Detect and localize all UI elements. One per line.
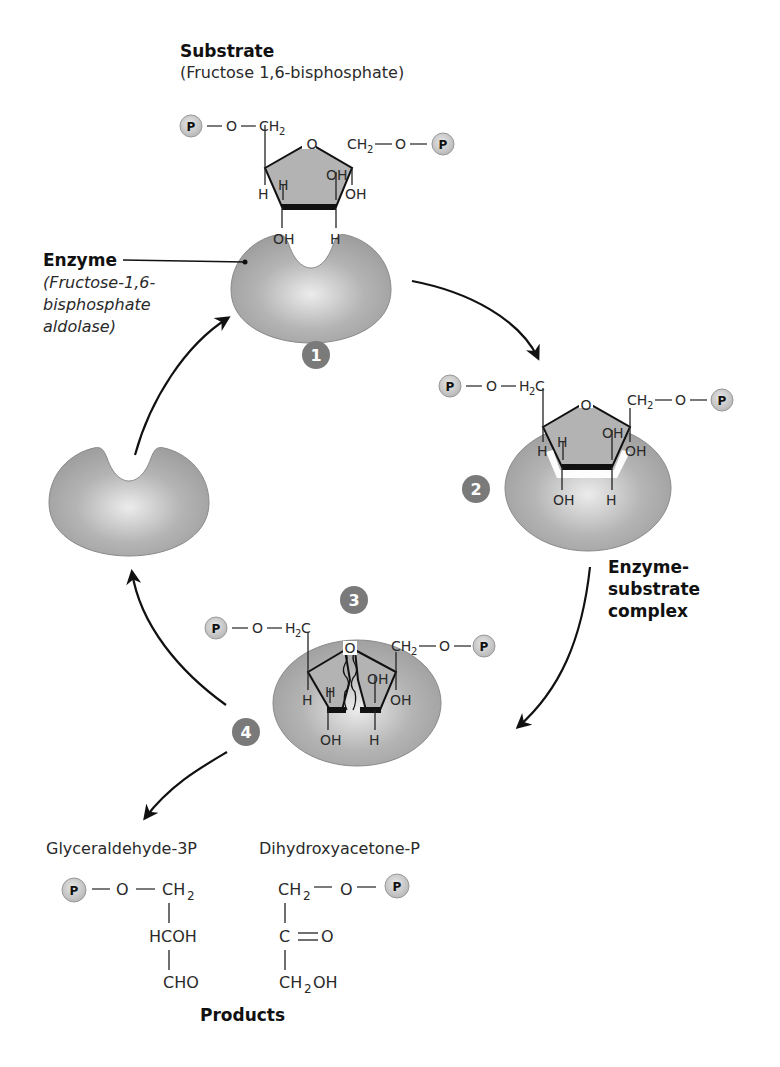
step-badge-2: 2 bbox=[462, 475, 490, 503]
step-badge-4: 4 bbox=[232, 718, 260, 746]
arrow-step2-to-step3 bbox=[518, 567, 590, 727]
svg-text:O: O bbox=[340, 880, 353, 899]
svg-text:CH: CH bbox=[347, 136, 367, 152]
products-structures: P O CH 2 HCOH CHO CH 2 O P C O CH 2 OH bbox=[62, 874, 409, 996]
svg-text:P: P bbox=[70, 884, 79, 898]
enzyme-heading: Enzyme bbox=[43, 250, 117, 271]
phosphate-icon: P bbox=[432, 133, 454, 155]
svg-text:O: O bbox=[306, 136, 317, 152]
svg-text:2: 2 bbox=[470, 480, 481, 499]
svg-text:2: 2 bbox=[303, 889, 311, 903]
svg-text:H: H bbox=[537, 443, 548, 459]
product-glyceraldehyde-name: Glyceraldehyde-3P bbox=[46, 838, 197, 859]
svg-text:H: H bbox=[278, 177, 289, 193]
svg-text:CH: CH bbox=[259, 118, 279, 134]
svg-text:O: O bbox=[226, 118, 237, 134]
enzyme-name-line2: bisphosphate bbox=[43, 294, 151, 315]
svg-text:H: H bbox=[302, 692, 313, 708]
svg-text:4: 4 bbox=[240, 723, 251, 742]
svg-text:P: P bbox=[187, 120, 196, 134]
svg-text:P: P bbox=[439, 138, 448, 152]
svg-text:C: C bbox=[301, 620, 311, 636]
svg-text:2: 2 bbox=[279, 126, 285, 137]
svg-text:O: O bbox=[116, 880, 129, 899]
svg-text:O: O bbox=[252, 620, 263, 636]
svg-text:O: O bbox=[395, 136, 406, 152]
svg-text:OH: OH bbox=[602, 425, 624, 441]
svg-text:OH: OH bbox=[313, 973, 338, 992]
complex-label-line3: complex bbox=[608, 601, 688, 622]
enzyme-name-line3: aldolase) bbox=[43, 316, 116, 337]
svg-text:P: P bbox=[446, 380, 455, 394]
svg-text:OH: OH bbox=[390, 692, 412, 708]
phosphate-icon: P bbox=[473, 635, 495, 657]
svg-text:P: P bbox=[393, 880, 402, 894]
svg-text:OH: OH bbox=[345, 186, 367, 202]
products-heading: Products bbox=[200, 1005, 285, 1026]
svg-text:OH: OH bbox=[367, 671, 389, 687]
arrow-free-enzyme-to-step1 bbox=[135, 318, 228, 455]
svg-text:O: O bbox=[344, 640, 355, 656]
svg-text:C: C bbox=[279, 927, 290, 946]
enzyme-step1 bbox=[231, 234, 391, 343]
svg-text:P: P bbox=[212, 622, 221, 636]
phosphate-icon: P bbox=[711, 389, 733, 411]
arrow-step1-to-step2 bbox=[412, 281, 538, 358]
diagram-canvas: O H H OH OH OH H O H H OH OH OH H O H H … bbox=[0, 0, 780, 1067]
svg-text:CH: CH bbox=[162, 880, 185, 899]
svg-text:H: H bbox=[325, 684, 336, 700]
phosphate-icon: P bbox=[62, 878, 86, 902]
svg-text:H: H bbox=[519, 378, 530, 394]
svg-text:2: 2 bbox=[411, 646, 417, 657]
svg-text:OH: OH bbox=[553, 492, 575, 508]
svg-text:O: O bbox=[675, 392, 686, 408]
svg-text:1: 1 bbox=[310, 346, 321, 365]
substrate-heading: Substrate bbox=[180, 41, 274, 62]
svg-text:O: O bbox=[321, 927, 334, 946]
enzyme-free bbox=[49, 447, 209, 556]
svg-text:OH: OH bbox=[320, 732, 342, 748]
svg-text:2: 2 bbox=[647, 400, 653, 411]
svg-text:2: 2 bbox=[187, 889, 195, 903]
svg-text:HCOH: HCOH bbox=[149, 927, 197, 946]
svg-text:P: P bbox=[718, 394, 727, 408]
arrow-step4-to-products bbox=[145, 752, 227, 818]
svg-text:CH: CH bbox=[391, 638, 411, 654]
step-badge-3: 3 bbox=[340, 586, 368, 614]
svg-text:H: H bbox=[330, 231, 341, 247]
step-badge-1: 1 bbox=[302, 341, 330, 369]
svg-text:H: H bbox=[557, 434, 568, 450]
svg-text:H: H bbox=[606, 492, 617, 508]
svg-text:CH: CH bbox=[627, 392, 647, 408]
svg-text:CHO: CHO bbox=[163, 973, 199, 992]
phosphate-icon: P bbox=[180, 115, 202, 137]
phosphate-icon: P bbox=[439, 375, 461, 397]
phosphate-icon: P bbox=[205, 617, 227, 639]
enzyme-name-line1: (Fructose-1,6- bbox=[43, 272, 155, 293]
svg-text:H: H bbox=[369, 732, 380, 748]
svg-text:3: 3 bbox=[348, 591, 359, 610]
svg-text:O: O bbox=[486, 378, 497, 394]
svg-text:H: H bbox=[258, 186, 269, 202]
product-dihydroxyacetone-name: Dihydroxyacetone-P bbox=[259, 838, 420, 859]
svg-text:2: 2 bbox=[304, 982, 312, 996]
svg-text:O: O bbox=[580, 397, 591, 413]
substrate-name: (Fructose 1,6-bisphosphate) bbox=[180, 62, 404, 83]
svg-text:O: O bbox=[439, 638, 450, 654]
phosphate-icon: P bbox=[385, 874, 409, 898]
svg-text:2: 2 bbox=[367, 144, 373, 155]
svg-text:OH: OH bbox=[625, 443, 647, 459]
complex-label-line2: substrate bbox=[608, 579, 700, 600]
svg-text:C: C bbox=[535, 378, 545, 394]
svg-text:CH: CH bbox=[278, 880, 301, 899]
enzyme-pointer-dot bbox=[243, 260, 248, 265]
svg-text:OH: OH bbox=[273, 231, 295, 247]
svg-text:H: H bbox=[285, 620, 296, 636]
svg-text:CH: CH bbox=[279, 973, 302, 992]
svg-text:P: P bbox=[480, 640, 489, 654]
complex-label-line1: Enzyme- bbox=[608, 557, 689, 578]
svg-text:OH: OH bbox=[326, 167, 348, 183]
enzyme-pointer-line bbox=[123, 260, 245, 262]
